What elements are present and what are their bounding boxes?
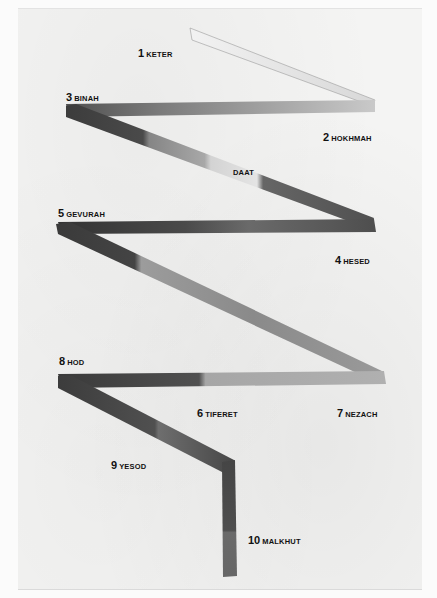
path-hesed-gevurah bbox=[58, 219, 376, 234]
sefira-name: BINAH bbox=[74, 94, 99, 103]
sefira-name: TIFERET bbox=[205, 410, 238, 419]
sefira-name: HESED bbox=[343, 257, 370, 266]
sefira-name: GEVURAH bbox=[66, 210, 105, 219]
label-daat: DAAT bbox=[233, 162, 254, 178]
label-hod: 8HOD bbox=[59, 352, 84, 368]
path-yesod-malkhut bbox=[222, 460, 237, 577]
path-binah-hesed bbox=[66, 104, 374, 226]
sefira-number: 2 bbox=[323, 131, 329, 143]
sefira-number: 4 bbox=[335, 254, 341, 266]
label-gevurah: 5GEVURAH bbox=[58, 204, 105, 220]
sefira-number: 9 bbox=[111, 459, 117, 471]
sefira-name: KETER bbox=[146, 50, 172, 59]
sefira-name: NEZACH bbox=[345, 410, 377, 419]
sefira-name: YESOD bbox=[119, 462, 146, 471]
label-tiferet: 6TIFERET bbox=[197, 404, 238, 420]
sefira-name: HOKHMAH bbox=[331, 134, 372, 143]
sefira-number: 3 bbox=[66, 91, 72, 103]
label-keter: 1KETER bbox=[138, 44, 173, 60]
sefira-number: 6 bbox=[197, 407, 203, 419]
label-hokhmah: 2HOKHMAH bbox=[323, 128, 372, 144]
label-binah: 3BINAH bbox=[66, 88, 99, 104]
label-malkhut: 10MALKHUT bbox=[248, 531, 301, 547]
sefira-name: MALKHUT bbox=[262, 537, 300, 546]
path-nezach-hod bbox=[58, 371, 386, 388]
label-nezach: 7NEZACH bbox=[337, 404, 378, 420]
sefira-number: 10 bbox=[248, 534, 260, 546]
label-hesed: 4HESED bbox=[335, 251, 370, 267]
sefira-number: 1 bbox=[138, 47, 144, 59]
sefira-number: 5 bbox=[58, 207, 64, 219]
path-gevurah-nezach bbox=[56, 222, 384, 380]
sefira-number: 7 bbox=[337, 407, 343, 419]
sefira-number: 8 bbox=[59, 355, 65, 367]
path-hokhmah-binah bbox=[66, 100, 375, 117]
artwork-canvas: 1KETER 2HOKHMAH 3BINAH DAAT 4HESED 5GEVU… bbox=[0, 0, 437, 598]
sefira-name: HOD bbox=[67, 358, 84, 367]
sefira-name: DAAT bbox=[233, 168, 254, 177]
path-keter-hokhmah bbox=[190, 28, 375, 106]
label-yesod: 9YESOD bbox=[111, 456, 146, 472]
